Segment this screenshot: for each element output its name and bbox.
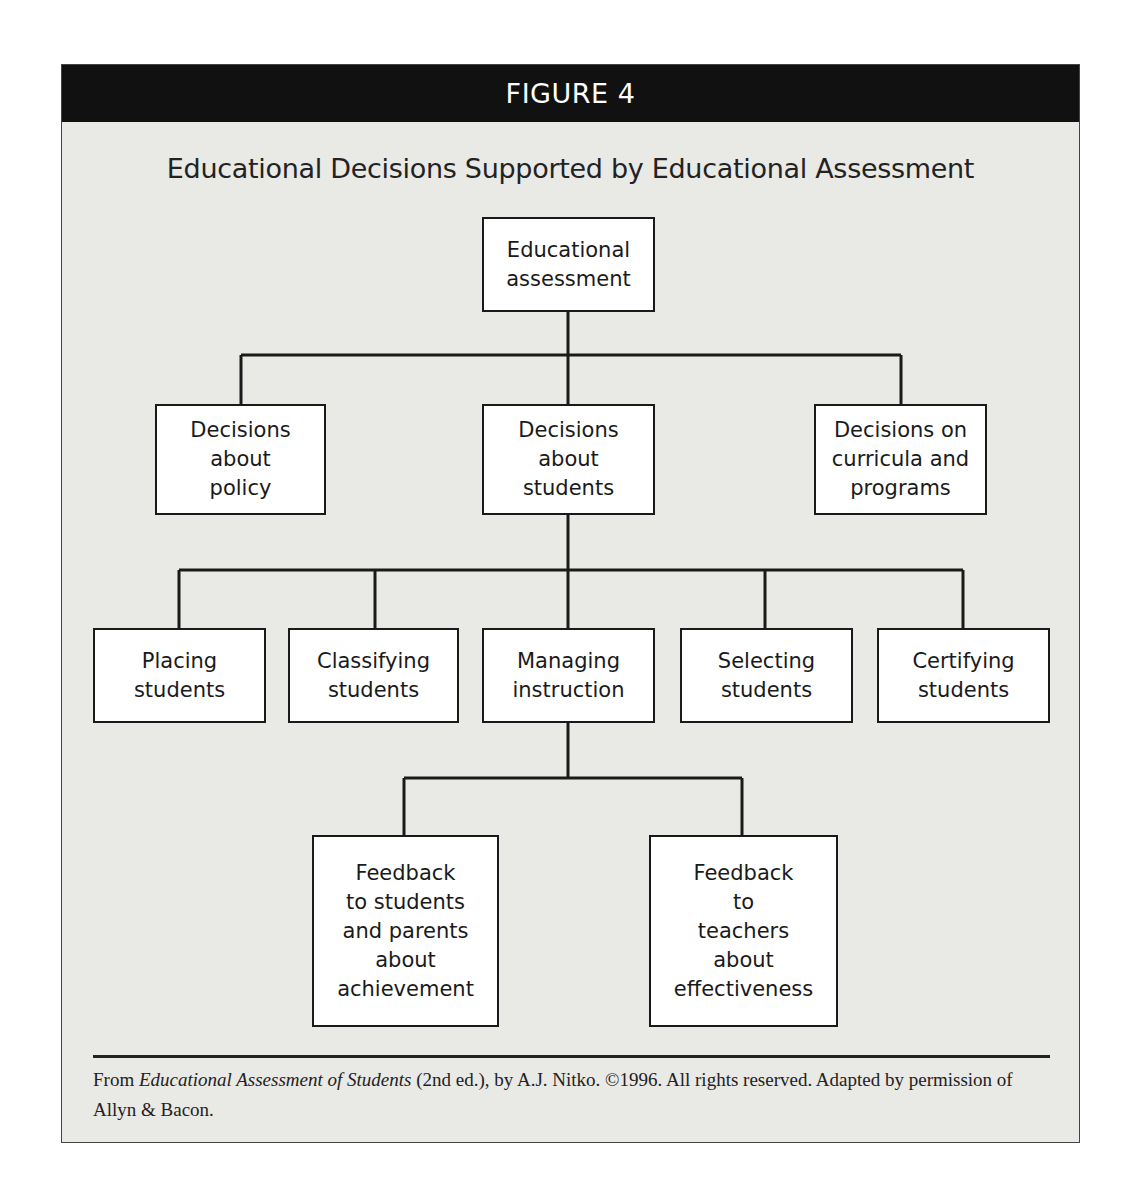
node-placing-students: Placing students [93,628,266,723]
node-feedback-students-parents: Feedback to students and parents about a… [312,835,499,1027]
node-decisions-students: Decisions about students [482,404,655,515]
node-feedback-teachers: Feedback to teachers about effectiveness [649,835,838,1027]
node-managing-instruction: Managing instruction [482,628,655,723]
node-decisions-curricula: Decisions on curricula and programs [814,404,987,515]
credit-prefix: From [93,1069,139,1090]
node-educational-assessment: Educational assessment [482,217,655,312]
node-selecting-students: Selecting students [680,628,853,723]
credit-divider [93,1055,1050,1058]
node-classifying-students: Classifying students [288,628,459,723]
node-decisions-policy: Decisions about policy [155,404,326,515]
figure-frame: FIGURE 4 Educational Decisions Supported… [61,64,1080,1143]
node-certifying-students: Certifying students [877,628,1050,723]
source-credit: From Educational Assessment of Students … [93,1065,1053,1125]
credit-book-title: Educational Assessment of Students [139,1069,412,1090]
